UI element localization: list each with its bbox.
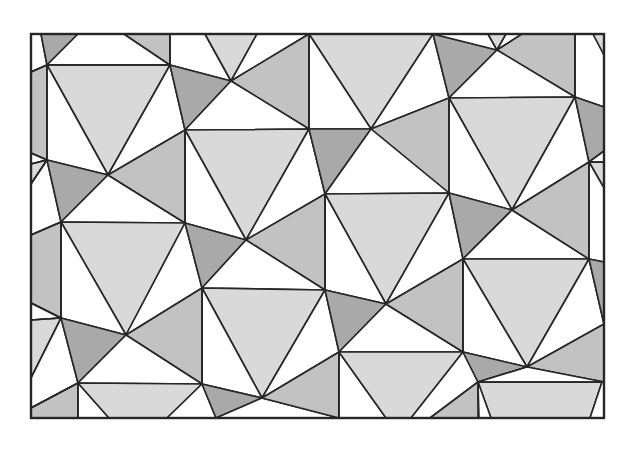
tile-medium-51 xyxy=(31,222,61,318)
tile-light-87 xyxy=(478,382,602,418)
tiling-canvas xyxy=(0,0,629,475)
tile-group xyxy=(31,34,604,418)
tile-medium-19 xyxy=(31,65,47,160)
